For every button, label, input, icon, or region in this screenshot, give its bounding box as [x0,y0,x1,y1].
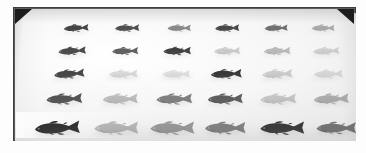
specimen-1-3 [163,23,195,32]
specimen-4-2 [96,92,143,106]
specimen-board [13,7,356,141]
specimen-2-6 [308,45,345,56]
specimen-3-4 [204,67,247,80]
specimen-4-6 [307,91,355,106]
specimen-3-6 [308,68,349,80]
specimen-1-4 [210,23,243,33]
specimen-2-3 [158,45,196,56]
specimen-1-5 [260,23,292,32]
specimen-5-6 [311,120,362,135]
specimen-1-2 [110,23,144,33]
specimen-2-1 [53,45,92,58]
specimen-4-5 [254,92,302,107]
specimen-3-1 [48,67,91,82]
specimen-grid [14,8,355,140]
specimen-5-1 [28,118,86,137]
specimen-1-1 [59,23,93,34]
specimen-1-6 [307,24,338,33]
specimen-4-1 [40,91,89,106]
specimen-4-3 [150,92,198,107]
specimen-5-3 [144,120,200,137]
specimen-2-4 [209,46,245,57]
specimen-3-5 [256,67,299,80]
specimen-3-3 [157,69,196,80]
specimen-5-4 [199,120,251,136]
specimen-2-2 [107,46,143,57]
specimen-5-2 [88,120,144,137]
photograph-canvas: Grayscale photograph of thirty fish spec… [0,0,366,153]
specimen-5-5 [254,120,310,137]
specimen-3-2 [103,68,143,80]
specimen-4-4 [201,92,248,106]
specimen-2-5 [258,46,295,57]
